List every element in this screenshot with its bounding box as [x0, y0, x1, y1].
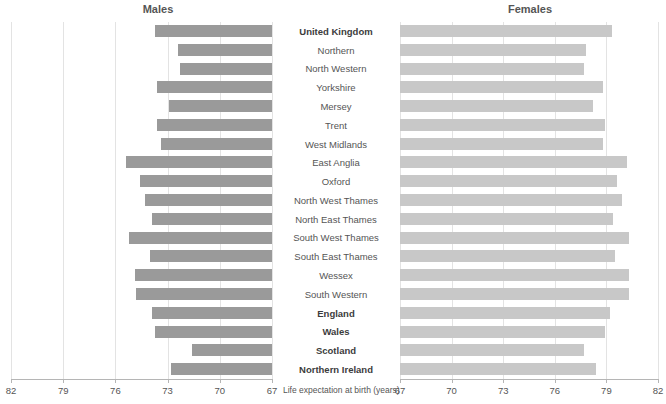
male-bar-row — [11, 60, 272, 79]
females-tick — [658, 379, 659, 383]
female-bar — [400, 175, 617, 187]
female-bar — [400, 194, 622, 206]
panel-title-females: Females — [460, 3, 600, 15]
female-bar-row — [400, 97, 658, 116]
male-bar-row — [11, 229, 272, 248]
life-expectancy-pyramid-chart: Males Females United KingdomNorthernNort… — [0, 0, 666, 404]
female-bar-row — [400, 341, 658, 360]
males-tick-label: 82 — [6, 385, 17, 396]
female-bar-row — [400, 78, 658, 97]
male-bar-row — [11, 191, 272, 210]
male-bar-row — [11, 304, 272, 323]
female-bar — [400, 63, 584, 75]
category-label: East Anglia — [272, 153, 400, 172]
female-bar-row — [400, 229, 658, 248]
category-label: Oxford — [272, 172, 400, 191]
category-label: Trent — [272, 116, 400, 135]
male-bar-row — [11, 360, 272, 379]
category-label: Scotland — [272, 341, 400, 360]
female-bar — [400, 156, 627, 168]
males-tick-label: 76 — [110, 385, 121, 396]
male-bar — [129, 232, 272, 244]
male-bar-row — [11, 116, 272, 135]
females-tick-label: 79 — [601, 385, 612, 396]
male-bar — [145, 194, 272, 206]
male-bar — [126, 156, 272, 168]
males-axis-line — [11, 379, 273, 380]
female-bar — [400, 269, 629, 281]
male-bar-row — [11, 266, 272, 285]
axis-caption: Life expectation at birth (years) — [283, 385, 400, 395]
males-tick — [11, 379, 12, 383]
female-bar — [400, 363, 596, 375]
males-tick-label: 79 — [58, 385, 69, 396]
female-bar — [400, 250, 615, 262]
female-bar-row — [400, 266, 658, 285]
male-bar-row — [11, 97, 272, 116]
male-bar-row — [11, 135, 272, 154]
males-tick — [272, 379, 273, 383]
category-label: Northern Ireland — [272, 360, 400, 379]
females-tick-label: 70 — [446, 385, 457, 396]
category-label: North West Thames — [272, 191, 400, 210]
male-bar — [155, 25, 272, 37]
panel-title-males: Males — [88, 3, 228, 15]
male-bar — [136, 288, 272, 300]
male-bar — [150, 250, 272, 262]
category-label: North Western — [272, 60, 400, 79]
female-bar-row — [400, 247, 658, 266]
category-label: South Western — [272, 285, 400, 304]
females-tick — [452, 379, 453, 383]
male-bar — [169, 100, 272, 112]
female-bar-row — [400, 191, 658, 210]
category-label: Yorkshire — [272, 78, 400, 97]
category-label: Wales — [272, 323, 400, 342]
male-bar-row — [11, 41, 272, 60]
female-bar-row — [400, 41, 658, 60]
males-tick — [63, 379, 64, 383]
male-bar — [140, 175, 272, 187]
female-bar — [400, 232, 629, 244]
female-bar — [400, 25, 612, 37]
male-bar-row — [11, 210, 272, 229]
female-bar — [400, 100, 593, 112]
female-bar-row — [400, 135, 658, 154]
male-bar-row — [11, 78, 272, 97]
male-bar-row — [11, 153, 272, 172]
male-bar-row — [11, 285, 272, 304]
males-tick — [115, 379, 116, 383]
male-bar — [152, 213, 272, 225]
female-bar-row — [400, 60, 658, 79]
male-bar — [161, 138, 272, 150]
males-plot-area — [11, 22, 272, 379]
males-bar-rows — [11, 22, 272, 379]
females-tick-label: 73 — [498, 385, 509, 396]
category-label: South East Thames — [272, 247, 400, 266]
male-bar — [157, 81, 272, 93]
female-bar-row — [400, 172, 658, 191]
female-bar — [400, 138, 603, 150]
male-bar — [192, 344, 272, 356]
females-tick — [555, 379, 556, 383]
female-bar-row — [400, 360, 658, 379]
males-tick-label: 73 — [162, 385, 173, 396]
males-tick — [220, 379, 221, 383]
female-bar — [400, 119, 605, 131]
category-label: West Midlands — [272, 135, 400, 154]
male-bar-row — [11, 22, 272, 41]
females-tick — [503, 379, 504, 383]
category-label: North East Thames — [272, 210, 400, 229]
category-label: Wessex — [272, 266, 400, 285]
female-bar — [400, 81, 603, 93]
female-bar — [400, 44, 586, 56]
male-bar — [180, 63, 272, 75]
male-bar — [178, 44, 272, 56]
female-bar-row — [400, 323, 658, 342]
category-label: South West Thames — [272, 229, 400, 248]
category-label: United Kingdom — [272, 22, 400, 41]
female-bar — [400, 288, 629, 300]
females-tick — [606, 379, 607, 383]
female-bar — [400, 213, 613, 225]
male-bar — [157, 119, 272, 131]
females-tick-label: 76 — [550, 385, 561, 396]
